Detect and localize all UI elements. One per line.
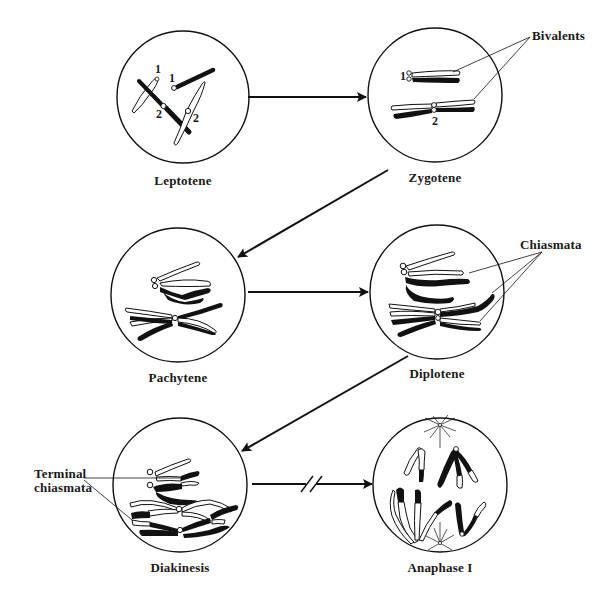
leptotene-cell bbox=[117, 31, 249, 163]
stage-label-pachytene: Pachytene bbox=[149, 370, 208, 386]
leptotene-chromosome-number-2a: 2 bbox=[156, 107, 162, 122]
arrow-diplotene-to-diakinesis bbox=[242, 356, 408, 451]
meiosis-diagram bbox=[0, 0, 610, 605]
stage-label-diplotene: Diplotene bbox=[409, 366, 464, 382]
chiasmata-pointer-1 bbox=[469, 252, 542, 273]
leptotene-chromosome-number-1a: 1 bbox=[155, 62, 161, 77]
stage-label-anaphase-1: Anaphase I bbox=[407, 560, 472, 576]
zygotene-cell bbox=[368, 28, 502, 162]
stage-label-diakinesis: Diakinesis bbox=[150, 560, 209, 576]
arrow-diakinesis-to-anaphase-broken bbox=[252, 476, 372, 492]
zygotene-chromosome-number-2: 2 bbox=[432, 114, 438, 129]
stage-label-leptotene: Leptotene bbox=[154, 173, 211, 189]
annotation-terminal-chiasmata-line1: Terminal bbox=[34, 467, 92, 481]
pachytene-chromosomes bbox=[125, 262, 222, 341]
stage-label-zygotene: Zygotene bbox=[409, 170, 462, 186]
diakinesis-chromosomes bbox=[130, 459, 238, 538]
chiasmata-pointer-2 bbox=[492, 252, 542, 293]
zygotene-chromosome-number-1: 1 bbox=[400, 69, 406, 84]
annotation-terminal-chiasmata-line2: chiasmata bbox=[34, 481, 92, 495]
annotation-chiasmata: Chiasmata bbox=[520, 237, 582, 253]
annotation-bivalents: Bivalents bbox=[532, 28, 585, 44]
annotation-terminal-chiasmata: Terminal chiasmata bbox=[34, 467, 92, 495]
bivalents-pointer-1 bbox=[453, 37, 530, 72]
anaphase-1-chromosomes bbox=[390, 415, 486, 550]
arrow-zygotene-to-pachytene bbox=[238, 170, 388, 257]
diplotene-chromosomes bbox=[389, 252, 495, 337]
leptotene-chromosome-number-1b: 1 bbox=[169, 71, 175, 86]
chiasmata-pointer-3 bbox=[480, 252, 542, 321]
leptotene-chromosome-number-2b: 2 bbox=[193, 111, 199, 126]
diplotene-cell bbox=[370, 225, 504, 359]
